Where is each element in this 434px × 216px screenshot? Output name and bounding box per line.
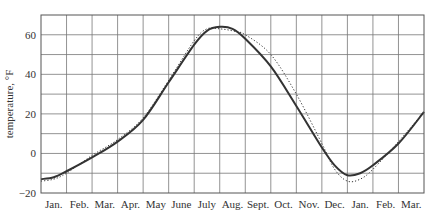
x-tick-label: Dec. [324, 198, 345, 210]
x-tick-label: Oct. [274, 198, 293, 210]
y-tick-label: 40 [25, 68, 37, 80]
x-tick-label: Feb. [376, 198, 396, 210]
y-tick-label: 20 [25, 108, 37, 120]
observed-data-line [41, 28, 424, 182]
x-tick-label: Jan. [45, 198, 63, 210]
x-tick-label: May [146, 198, 167, 210]
x-tick-label: Sept. [247, 198, 270, 210]
y-axis-label: temperature, °F [3, 70, 15, 139]
x-tick-label: Feb. [70, 198, 90, 210]
series [41, 27, 424, 182]
temperature-chart: −200204060 Jan.Feb.Mar.Apr.MayJuneJulyAu… [0, 0, 434, 216]
y-tick-label: 0 [31, 147, 37, 159]
y-tick-label: 60 [25, 29, 37, 41]
x-tick-label: July [198, 198, 217, 210]
plot-frame [41, 15, 424, 193]
x-tick-label: Mar. [401, 198, 422, 210]
x-tick-label: Nov. [299, 198, 320, 210]
y-axis-ticks: −200204060 [19, 29, 37, 199]
x-tick-label: Aug. [222, 198, 244, 210]
x-tick-label: Jan. [351, 198, 369, 210]
x-tick-label: Mar. [95, 198, 116, 210]
fitted-curve-line [41, 27, 424, 179]
y-tick-label: −20 [19, 187, 37, 199]
x-tick-label: Apr. [121, 198, 141, 210]
x-tick-label: June [171, 198, 191, 210]
grid [41, 15, 424, 193]
x-axis-ticks: Jan.Feb.Mar.Apr.MayJuneJulyAug.Sept.Oct.… [45, 198, 422, 210]
